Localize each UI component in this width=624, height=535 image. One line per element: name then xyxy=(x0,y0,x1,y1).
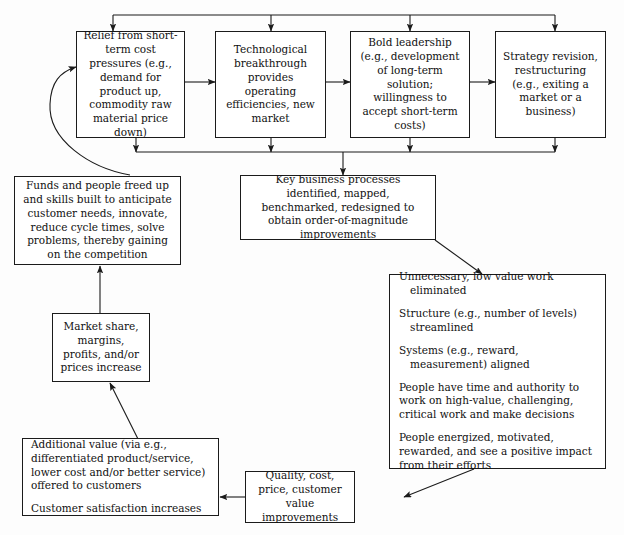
node-outcomes-list[interactable]: Unnecessary, low value work eliminated S… xyxy=(389,274,606,469)
outcome-line-5: People energized, motivated, rewarded, a… xyxy=(399,431,596,473)
node-relief-text: Relief from short-term cost pressures (e… xyxy=(83,29,178,140)
node-strategy-text: Strategy revision, restructuring (e.g., … xyxy=(502,50,599,119)
node-market-share[interactable]: Market share, margins, profits, and/or p… xyxy=(52,313,150,382)
node-technological-breakthrough[interactable]: Technological breakthrough provides oper… xyxy=(215,31,326,138)
node-funds-text: Funds and people freed up and skills bui… xyxy=(21,179,174,262)
node-processes-text: Key business processes identified, mappe… xyxy=(247,173,429,242)
node-quality-cost-price[interactable]: Quality, cost, price, customer value imp… xyxy=(245,471,355,523)
outcome-line-4: People have time and authority to work o… xyxy=(399,381,596,423)
additional-value-line-2: Customer satisfaction increases xyxy=(31,502,210,516)
node-technological-text: Technological breakthrough provides oper… xyxy=(222,43,319,126)
additional-value-line-1: Additional value (via e.g., differentiat… xyxy=(31,438,210,493)
outcome-line-3: Systems (e.g., reward, measurement) alig… xyxy=(399,344,596,372)
node-funds-and-people[interactable]: Funds and people freed up and skills bui… xyxy=(14,176,181,265)
node-key-business-processes[interactable]: Key business processes identified, mappe… xyxy=(240,175,436,240)
edge-value-to-market xyxy=(110,383,138,439)
node-bold-leadership[interactable]: Bold leadership (e.g., development of lo… xyxy=(350,31,470,138)
flowchart-canvas: Relief from short-term cost pressures (e… xyxy=(0,0,624,535)
node-relief-from-cost-pressures[interactable]: Relief from short-term cost pressures (e… xyxy=(76,31,185,138)
outcome-line-2: Structure (e.g., number of levels) strea… xyxy=(399,307,596,335)
outcome-line-1: Unnecessary, low value work eliminated xyxy=(399,270,596,298)
node-market-share-text: Market share, margins, profits, and/or p… xyxy=(59,320,143,375)
node-leadership-text: Bold leadership (e.g., development of lo… xyxy=(357,36,463,133)
node-additional-value[interactable]: Additional value (via e.g., differentiat… xyxy=(22,438,219,516)
node-quality-text: Quality, cost, price, customer value imp… xyxy=(252,469,348,524)
node-strategy-revision[interactable]: Strategy revision, restructuring (e.g., … xyxy=(495,31,606,138)
